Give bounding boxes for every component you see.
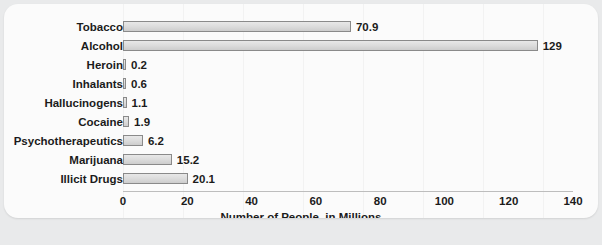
x-tick-label: 140	[553, 195, 593, 208]
bar-value-label: 15.2	[177, 152, 199, 168]
plot-area: Tobacco70.9Alcohol129Heroin0.2Inhalants0…	[4, 4, 598, 218]
bar-value-label: 129	[543, 38, 562, 54]
bar-category-label: Alcohol	[4, 38, 123, 54]
bar	[123, 154, 172, 165]
bar-value-label: 70.9	[356, 19, 378, 35]
x-axis-title: Number of People, in Millions	[4, 210, 598, 218]
bar-row: Heroin0.2	[4, 57, 598, 73]
bar-row: Psychotherapeutics6.2	[4, 133, 598, 149]
bar-value-label: 1.9	[134, 114, 150, 130]
bar-category-label: Inhalants	[4, 76, 123, 92]
bar-value-label: 6.2	[148, 133, 164, 149]
bar	[123, 21, 351, 32]
bar-category-label: Hallucinogens	[4, 95, 123, 111]
bar	[123, 40, 538, 51]
x-tick-label: 40	[232, 195, 272, 208]
bar-row: Inhalants0.6	[4, 76, 598, 92]
bar	[123, 97, 127, 108]
bar-category-label: Heroin	[4, 57, 123, 73]
bar-value-label: 0.2	[131, 57, 147, 73]
bar	[123, 78, 126, 89]
bar	[123, 59, 126, 70]
bar-value-label: 1.1	[132, 95, 148, 111]
bar-category-label: Illicit Drugs	[4, 171, 123, 187]
bar-row: Hallucinogens1.1	[4, 95, 598, 111]
bar	[123, 135, 143, 146]
bar-category-label: Psychotherapeutics	[4, 133, 123, 149]
bar-row: Cocaine1.9	[4, 114, 598, 130]
bar-row: Marijuana15.2	[4, 152, 598, 168]
chart-panel: Tobacco70.9Alcohol129Heroin0.2Inhalants0…	[4, 4, 598, 218]
x-axis-line	[123, 191, 573, 192]
x-tick-label: 120	[489, 195, 529, 208]
bar-value-label: 0.6	[131, 76, 147, 92]
x-tick-label: 100	[424, 195, 464, 208]
x-tick-label: 0	[103, 195, 143, 208]
bar	[123, 116, 129, 127]
bar-value-label: 20.1	[193, 171, 215, 187]
bar-row: Tobacco70.9	[4, 19, 598, 35]
x-tick-label: 80	[360, 195, 400, 208]
bar	[123, 173, 188, 184]
bar-category-label: Cocaine	[4, 114, 123, 130]
bar-category-label: Marijuana	[4, 152, 123, 168]
x-tick-label: 60	[296, 195, 336, 208]
bar-row: Illicit Drugs20.1	[4, 171, 598, 187]
bar-category-label: Tobacco	[4, 19, 123, 35]
x-tick-label: 20	[167, 195, 207, 208]
bar-row: Alcohol129	[4, 38, 598, 54]
